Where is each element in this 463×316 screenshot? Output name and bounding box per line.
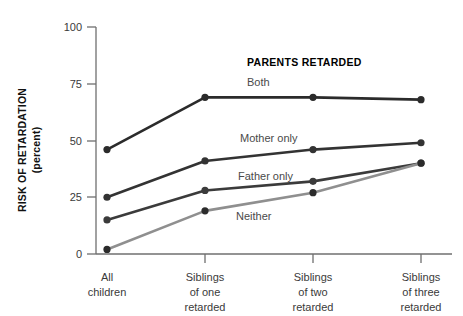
x-label-siblings-three-line2: of three (402, 286, 439, 298)
x-label-all-children-line1: All (101, 271, 113, 283)
legend-title: PARENTS RETARDED (247, 56, 362, 68)
data-point (103, 146, 110, 153)
y-tick-label-50: 50 (70, 135, 82, 147)
series-label-neither: Neither (236, 210, 272, 222)
y-tick-labels: 100 75 50 25 0 (64, 21, 82, 260)
series-label-both: Both (247, 76, 270, 88)
data-point (309, 94, 316, 101)
data-point (417, 160, 424, 167)
x-label-siblings-two-line2: of two (298, 286, 327, 298)
data-point (201, 207, 208, 214)
data-point (201, 187, 208, 194)
x-label-siblings-three-line1: Siblings (402, 271, 441, 283)
data-point (201, 157, 208, 164)
x-label-siblings-two-line3: retarded (293, 301, 334, 313)
data-point (309, 189, 316, 196)
data-point (417, 96, 424, 103)
x-label-siblings-one-line3: retarded (185, 301, 226, 313)
y-axis-title-main: RISK OF RETARDATION (16, 88, 28, 212)
data-point (103, 194, 110, 201)
risk-of-retardation-line-chart: 100 75 50 25 0 RISK OF RETARDATION (perc… (0, 0, 463, 316)
y-tick-label-25: 25 (70, 191, 82, 203)
y-tick-label-75: 75 (70, 78, 82, 90)
series-label-mother-only: Mother only (240, 132, 298, 144)
chart-canvas: 100 75 50 25 0 RISK OF RETARDATION (perc… (0, 0, 463, 316)
series-label-father-only: Father only (238, 170, 294, 182)
data-point (201, 94, 208, 101)
y-axis-title: RISK OF RETARDATION (percent) (16, 88, 42, 212)
data-point (417, 139, 424, 146)
data-point (103, 216, 110, 223)
y-axis-title-sub: (percent) (30, 127, 42, 174)
x-label-siblings-one-line2: of one (190, 286, 221, 298)
y-tick-label-0: 0 (76, 248, 82, 260)
x-label-all-children-line2: children (88, 286, 127, 298)
data-point (309, 178, 316, 185)
y-tick-label-100: 100 (64, 21, 82, 33)
x-label-siblings-three-line3: retarded (401, 301, 442, 313)
data-point (309, 146, 316, 153)
x-label-siblings-one-line1: Siblings (186, 271, 225, 283)
x-category-labels: All children Siblings of one retarded Si… (88, 271, 442, 313)
x-label-siblings-two-line1: Siblings (294, 271, 333, 283)
data-point (103, 246, 110, 253)
